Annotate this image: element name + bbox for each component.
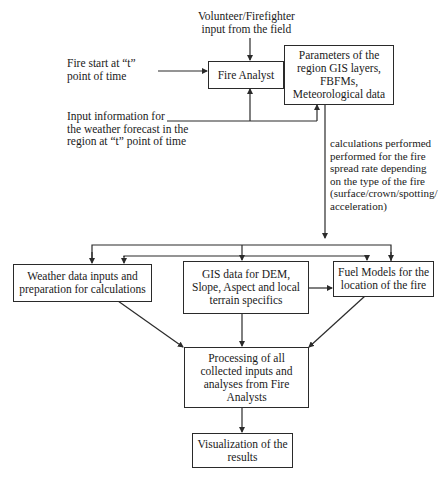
weather-data-text: Weather data inputs and preparation for …	[17, 270, 148, 296]
gis-data-node: GIS data for DEM, Slope, Aspect and loca…	[183, 261, 309, 314]
visualization-node: Visualization of the results	[192, 433, 293, 468]
fire-analyst-text: Fire Analyst	[218, 69, 275, 82]
processing-node: Processing of all collected inputs and a…	[184, 347, 309, 408]
processing-text: Processing of all collected inputs and a…	[195, 352, 298, 404]
arrow-weather-to-processing	[118, 301, 183, 347]
volunteer-input-label: Volunteer/Firefighter input from the fie…	[198, 10, 295, 35]
fuel-models-node: Fuel Models for the location of the fire	[333, 261, 434, 297]
arrow-fuel-to-processing	[309, 296, 365, 347]
fuel-models-text: Fuel Models for the location of the fire	[337, 266, 430, 292]
flowchart-canvas: Volunteer/Firefighter input from the fie…	[0, 0, 447, 481]
weather-data-node: Weather data inputs and preparation for …	[13, 264, 152, 302]
fire-analyst-node: Fire Analyst	[208, 61, 284, 89]
fire-start-label: Fire start at “t” point of time	[67, 57, 136, 82]
parameters-text: Parameters of the region GIS layers, FBF…	[288, 49, 390, 101]
visualization-text: Visualization of the results	[196, 438, 289, 464]
weather-forecast-input-label: Input information for the weather foreca…	[67, 110, 188, 148]
gis-data-text: GIS data for DEM, Slope, Aspect and loca…	[187, 268, 305, 307]
parameters-node: Parameters of the region GIS layers, FBF…	[284, 45, 394, 105]
calculations-note: calculations performed performed for the…	[330, 137, 438, 212]
connector-bus-inner	[124, 256, 367, 257]
